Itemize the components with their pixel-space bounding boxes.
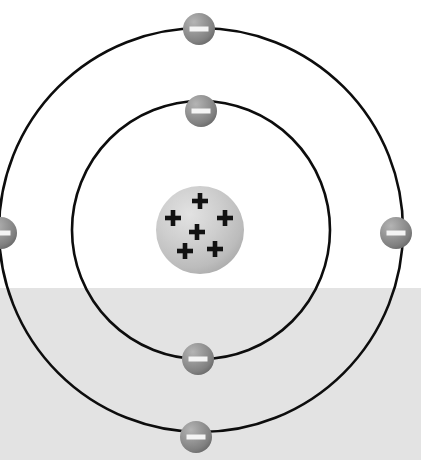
atom-svg (0, 0, 421, 460)
electron-outer-shell (183, 13, 215, 45)
electron-minus-icon (189, 357, 208, 362)
electron-outer-shell (0, 217, 17, 249)
electron-inner-shell (185, 95, 217, 127)
electron-minus-icon (0, 231, 11, 236)
proton-bar-vertical (198, 193, 203, 209)
proton-bar-vertical (213, 241, 218, 257)
atom-diagram-canvas (0, 0, 421, 460)
electron-inner-shell (182, 343, 214, 375)
electron-minus-icon (192, 109, 211, 114)
electron-minus-icon (190, 27, 209, 32)
electron-outer-shell (180, 421, 212, 453)
electron-outer-shell (380, 217, 412, 249)
proton-bar-vertical (195, 224, 200, 240)
proton-bar-vertical (223, 210, 228, 226)
electron-minus-icon (387, 231, 406, 236)
proton-bar-vertical (183, 243, 188, 259)
proton-bar-vertical (171, 210, 176, 226)
electron-minus-icon (187, 435, 206, 440)
nucleus-group (156, 186, 244, 274)
